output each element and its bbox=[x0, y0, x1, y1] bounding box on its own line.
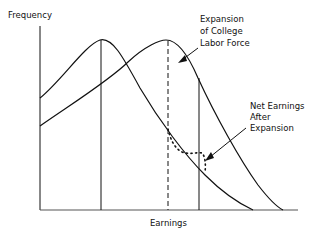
net-earnings-label-line-1: Net Earnings bbox=[250, 101, 305, 111]
expansion-label-line-1: Expansion bbox=[200, 14, 244, 24]
net-earnings-label-line-2: After bbox=[250, 112, 271, 122]
expansion-label-line-3: Labor Force bbox=[200, 38, 250, 48]
x-axis-label: Earnings bbox=[150, 218, 187, 228]
net-earnings-dotted-curve bbox=[168, 129, 205, 172]
net-earnings-label-line-3: Expansion bbox=[250, 123, 294, 133]
expansion-label-line-2: of College bbox=[200, 26, 243, 36]
y-axis-label: Frequency bbox=[8, 10, 52, 20]
expanded-distribution-curve bbox=[40, 40, 283, 210]
earnings-frequency-diagram: Frequency Earnings Expansion of College … bbox=[0, 0, 317, 239]
expansion-arrow-icon bbox=[178, 48, 198, 63]
